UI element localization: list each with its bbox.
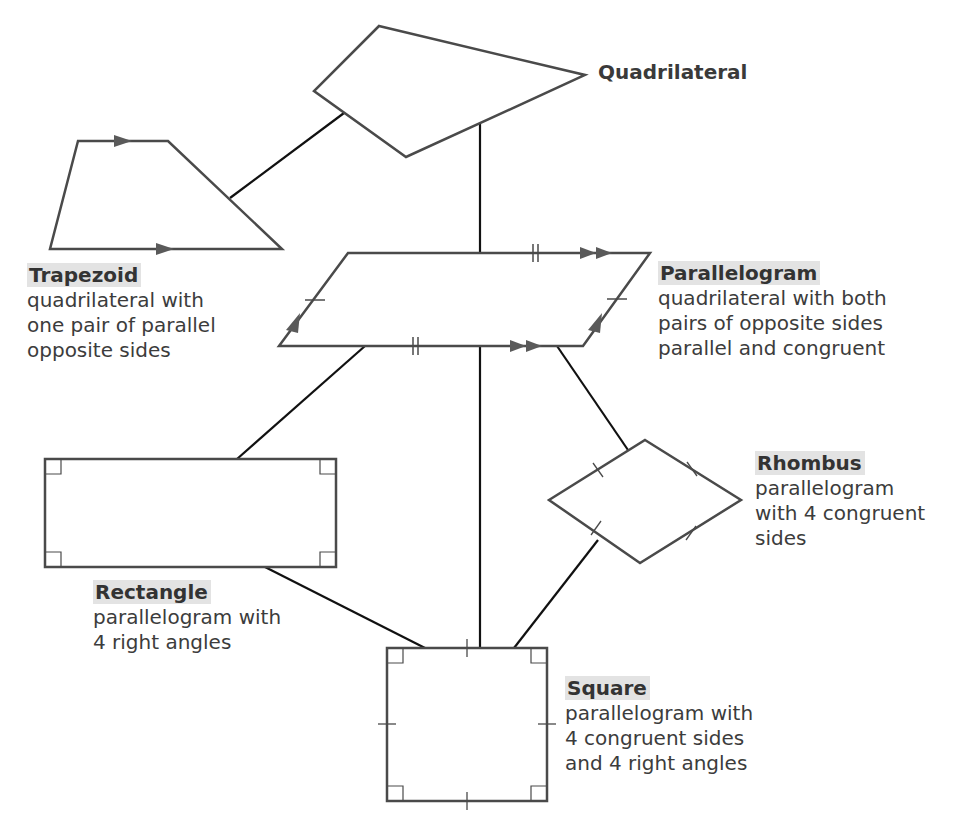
rectangle-title: Rectangle <box>93 580 211 604</box>
edge-parallelogram-rectangle <box>237 346 365 459</box>
edge-parallelogram-rhombus <box>557 346 628 450</box>
quadrilateral-label: Quadrilateral <box>598 60 747 84</box>
parallelogram-shape <box>279 244 650 355</box>
square-label: Square parallelogram with 4 congruent si… <box>565 676 753 776</box>
rectangle-label: Rectangle parallelogram with 4 right ang… <box>93 580 281 655</box>
trapezoid-desc-line: one pair of parallel <box>27 313 216 338</box>
quadrilateral-hierarchy-diagram <box>0 0 955 826</box>
trapezoid-shape <box>50 135 282 255</box>
trapezoid-title: Trapezoid <box>27 263 141 287</box>
rhombus-desc-line: sides <box>755 526 925 551</box>
rhombus-shape <box>549 440 741 563</box>
square-desc-line: 4 congruent sides <box>565 726 753 751</box>
parallelogram-desc-line: pairs of opposite sides <box>658 311 887 336</box>
quadrilateral-shape <box>314 26 585 157</box>
parallelogram-label: Parallelogram quadrilateral with both pa… <box>658 261 887 361</box>
edge-quadrilateral-trapezoid <box>230 113 344 198</box>
rhombus-desc-line: with 4 congruent <box>755 501 925 526</box>
rhombus-desc-line: parallelogram <box>755 476 925 501</box>
edge-rectangle-square <box>265 567 425 648</box>
edge-rhombus-square <box>514 540 598 648</box>
square-shape <box>378 639 556 810</box>
rhombus-title: Rhombus <box>755 451 865 475</box>
parallel-arrow-icon <box>286 313 300 333</box>
parallelogram-title: Parallelogram <box>658 261 820 285</box>
square-title: Square <box>565 676 650 700</box>
trapezoid-desc-line: opposite sides <box>27 338 216 363</box>
trapezoid-desc-line: quadrilateral with <box>27 288 216 313</box>
rectangle-desc-line: parallelogram with <box>93 605 281 630</box>
rectangle-shape <box>45 459 336 567</box>
square-desc-line: and 4 right angles <box>565 751 753 776</box>
parallelogram-desc-line: quadrilateral with both <box>658 286 887 311</box>
trapezoid-label: Trapezoid quadrilateral with one pair of… <box>27 263 216 363</box>
parallelogram-desc-line: parallel and congruent <box>658 336 887 361</box>
rhombus-label: Rhombus parallelogram with 4 congruent s… <box>755 451 925 551</box>
square-desc-line: parallelogram with <box>565 701 753 726</box>
rectangle-desc-line: 4 right angles <box>93 630 281 655</box>
